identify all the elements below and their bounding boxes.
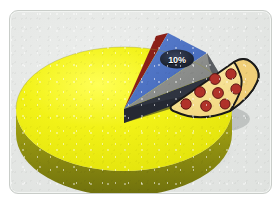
pepperoni (181, 99, 191, 109)
pepperoni (201, 101, 212, 112)
pepperoni (195, 87, 206, 98)
image-canvas: 10% (0, 0, 279, 201)
percent-badge (160, 50, 194, 69)
picture-frame: 10% (9, 10, 272, 194)
pepperoni (213, 88, 224, 99)
pepperoni (226, 69, 236, 79)
pepperoni (220, 99, 230, 109)
pie-chart-illustration (10, 11, 271, 193)
pepperoni (231, 84, 241, 94)
pie-chart-svg (10, 11, 271, 193)
pepperoni (210, 74, 221, 85)
